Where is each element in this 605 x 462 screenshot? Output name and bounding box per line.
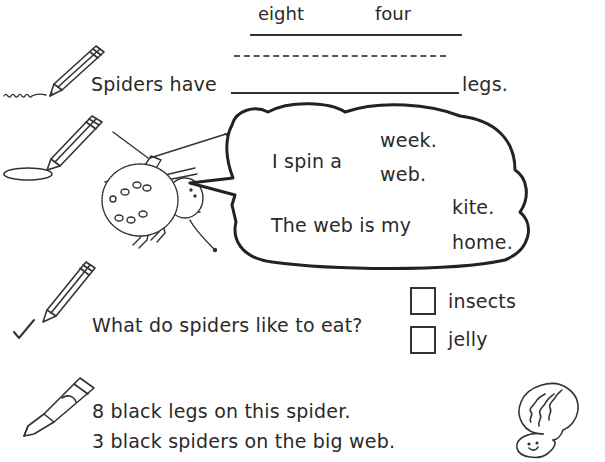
q3-question: What do spiders like to eat?	[92, 314, 363, 336]
crayon-icon	[18, 374, 98, 440]
q2-s2-option[interactable]: kite.	[452, 196, 494, 218]
q2-s2-option[interactable]: home.	[452, 231, 513, 253]
checkbox-jelly[interactable]	[410, 326, 436, 354]
q2-s1-prefix: I spin a	[272, 150, 342, 172]
thinking-head-icon	[505, 378, 605, 462]
q2-s1-option[interactable]: web.	[380, 163, 426, 185]
pencil-check-icon	[0, 258, 100, 348]
q2-s1-option[interactable]: week.	[380, 129, 437, 151]
checkbox-insects[interactable]	[410, 287, 436, 315]
option-label-jelly: jelly	[448, 328, 488, 350]
q4-line-1: 8 black legs on this spider.	[92, 400, 351, 422]
q4-line-2: 3 black spiders on the big web.	[92, 430, 395, 452]
option-label-insects: insects	[448, 290, 516, 312]
q2-s2-prefix: The web is my	[271, 214, 411, 236]
